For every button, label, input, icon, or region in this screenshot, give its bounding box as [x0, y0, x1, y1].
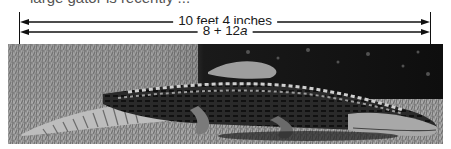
dimension-arrow-expression: 8 + 12a — [20, 26, 430, 38]
expression-variable: a — [240, 23, 247, 38]
clipped-caption-text: large gator is recently ... — [30, 0, 190, 6]
alligator-image — [8, 44, 443, 144]
expression-constant: 8 + 12 — [203, 23, 240, 38]
alligator-photo — [8, 44, 443, 144]
dimension-label-expression: 8 + 12a — [198, 24, 253, 38]
